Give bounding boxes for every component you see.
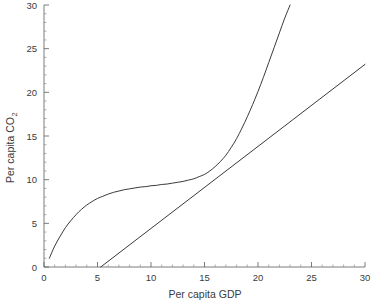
- y-axis-title-subscript: 2: [10, 112, 19, 116]
- chart-axes: [44, 5, 365, 267]
- y-tick-label: 0: [32, 262, 37, 273]
- y-tick-label: 25: [26, 43, 37, 54]
- x-axis-title: Per capita GDP: [169, 288, 242, 300]
- chart-series-line-2: [101, 64, 365, 267]
- y-tick-label: 20: [26, 87, 37, 98]
- x-tick-label: 10: [146, 272, 157, 283]
- x-tick-label: 15: [199, 272, 210, 283]
- x-tick-label: 0: [41, 272, 46, 283]
- x-axis-ticks: [44, 262, 365, 267]
- chart-series-group: [49, 5, 365, 267]
- x-tick-label: 20: [253, 272, 264, 283]
- y-axis-title-group: Per capita CO 2: [4, 112, 19, 183]
- x-tick-label: 30: [360, 272, 371, 283]
- x-axis-tick-labels: 051015202530: [41, 272, 370, 283]
- y-tick-label: 30: [26, 0, 37, 11]
- chart-series-line-1: [49, 5, 290, 258]
- chart-figure: 051015202530 051015202530 Per capita GDP…: [0, 0, 376, 306]
- y-axis-ticks: [44, 5, 49, 267]
- y-axis-title: Per capita CO: [4, 117, 16, 183]
- y-tick-label: 5: [32, 218, 37, 229]
- y-tick-label: 10: [26, 174, 37, 185]
- x-tick-label: 25: [306, 272, 317, 283]
- y-axis-tick-labels: 051015202530: [26, 0, 37, 273]
- y-tick-label: 15: [26, 131, 37, 142]
- chart-plot-area: 051015202530 051015202530 Per capita GDP…: [0, 0, 376, 306]
- x-tick-label: 5: [95, 272, 100, 283]
